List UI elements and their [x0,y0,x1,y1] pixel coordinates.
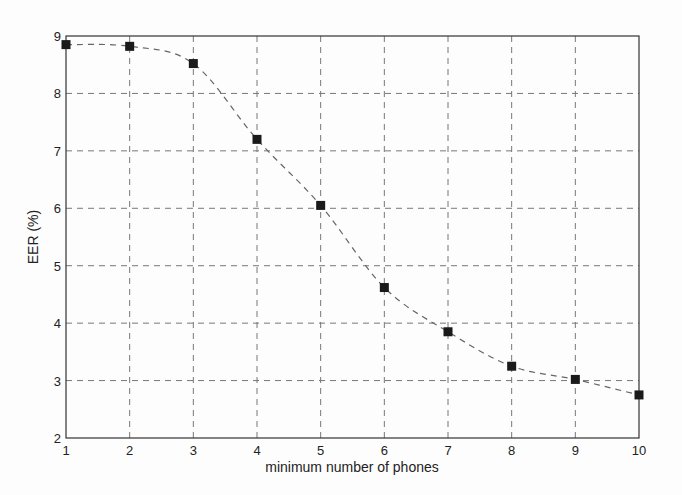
data-point-marker [189,59,198,68]
y-tick-label: 7 [54,144,61,159]
y-tick-label: 3 [54,374,61,389]
plot-area-frame [66,36,639,438]
y-axis-label: EER (%) [25,210,41,264]
data-point-marker [507,362,516,371]
data-point-marker [571,375,580,384]
data-point-marker [62,40,71,49]
x-tick-label: 9 [572,443,579,458]
x-tick-label: 8 [508,443,515,458]
data-point-marker [316,201,325,210]
y-tick-label: 2 [54,431,61,446]
y-tick-label: 6 [54,201,61,216]
data-point-marker [635,390,644,399]
y-tick-label: 4 [54,316,61,331]
x-tick-label: 4 [253,443,260,458]
x-tick-label: 6 [381,443,388,458]
eer-line-chart: 1234567891023456789 minimum number of ph… [0,0,682,495]
x-tick-label: 1 [62,443,69,458]
series-markers [62,40,644,399]
data-point-marker [253,135,262,144]
series-line [66,44,639,395]
grid-lines [66,36,639,438]
x-tick-label: 7 [444,443,451,458]
x-tick-label: 2 [126,443,133,458]
data-point-marker [125,42,134,51]
axis-ticks: 1234567891023456789 [54,29,646,458]
x-tick-label: 3 [190,443,197,458]
x-axis-label: minimum number of phones [265,459,439,475]
data-point-marker [380,283,389,292]
x-tick-label: 5 [317,443,324,458]
x-tick-label: 10 [632,443,646,458]
y-tick-label: 9 [54,29,61,44]
data-point-marker [444,327,453,336]
y-tick-label: 8 [54,86,61,101]
y-tick-label: 5 [54,259,61,274]
